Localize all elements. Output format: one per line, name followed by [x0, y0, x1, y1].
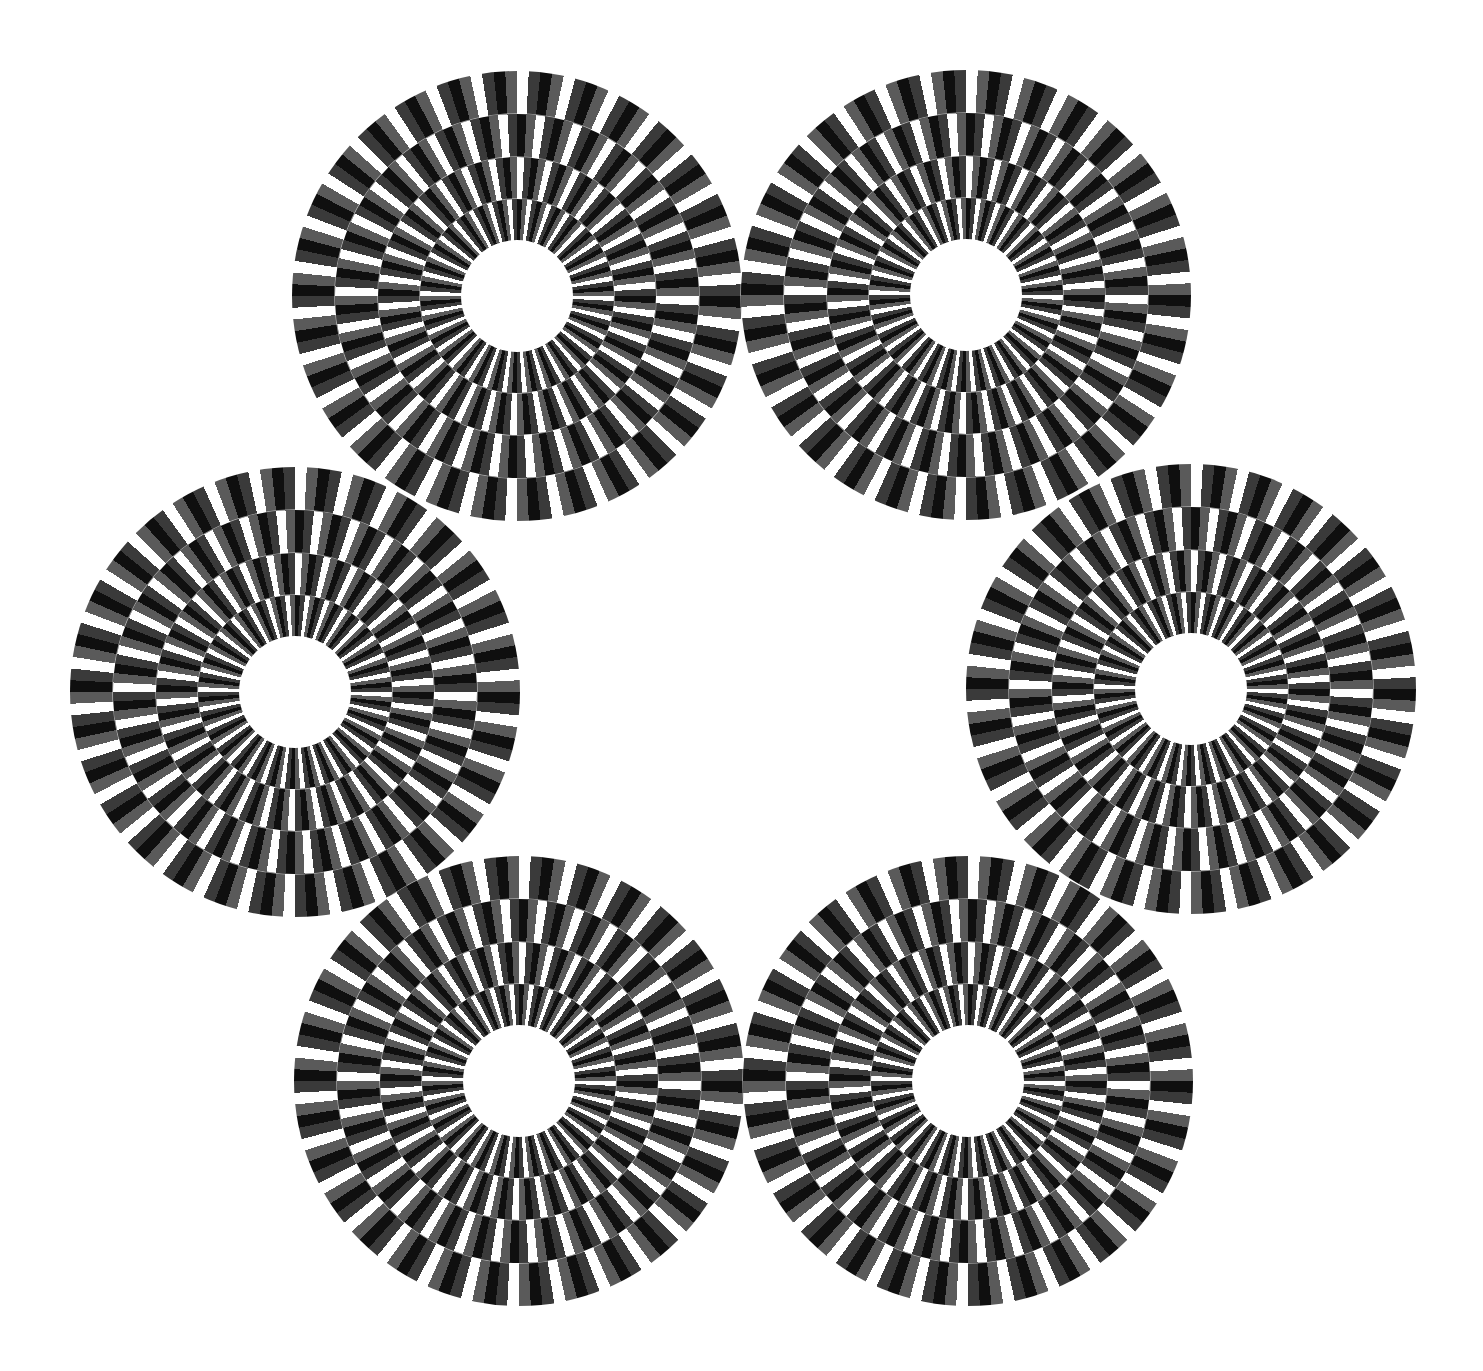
disc-middle-right	[966, 464, 1416, 914]
center-hole	[912, 1025, 1024, 1137]
center-hole	[910, 239, 1022, 351]
disc-top-left	[292, 71, 742, 521]
disc-bottom-left	[294, 856, 744, 1306]
center-hole	[461, 240, 573, 352]
center-hole	[463, 1025, 575, 1137]
disc-top-right	[741, 70, 1191, 520]
center-hole	[239, 636, 351, 748]
center-hole	[1135, 633, 1247, 745]
illusion-canvas	[0, 0, 1483, 1371]
disc-middle-left	[70, 467, 520, 917]
disc-bottom-right	[743, 856, 1193, 1306]
